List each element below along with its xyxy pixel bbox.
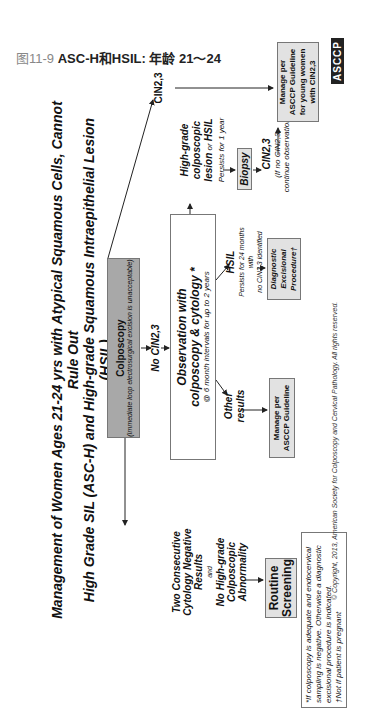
- high-grade-lesion-label: High-grade colposcopic lesion or HSIL Pe…: [179, 96, 228, 204]
- two-consecutive-line-3: Results: [193, 524, 204, 620]
- two-consecutive-and: and: [204, 524, 215, 620]
- manage-asccp-line-1: Manage per: [272, 396, 282, 440]
- routine-screening-box: Routine Screening: [265, 558, 297, 618]
- manage-young-line-1: Manage per: [278, 60, 288, 104]
- manage-young-women-box: Manage per ASCCP Guideline for young wom…: [277, 42, 319, 122]
- cin23-top-label: CIN2,3: [153, 68, 165, 108]
- footnote-line-3: excisional procedure is indicated.: [324, 585, 334, 703]
- high-grade-line-1: High-grade colposcopic: [179, 96, 203, 204]
- cin23-bottom-note-2: continue observation): [282, 113, 291, 195]
- observation-line-2: colposcopy & cytology *: [189, 267, 202, 406]
- cin23-bottom-label: CIN2,3 (If no CIN2,3, continue observati…: [261, 113, 291, 195]
- copyright-text: © Copyright, 2013, American Society for …: [331, 302, 338, 600]
- no-cin23-label: No CIN2,3: [150, 316, 162, 380]
- cin23-bottom-title: CIN2,3: [261, 113, 273, 195]
- manage-asccp-line-2: ASCCP Guideline: [282, 385, 292, 452]
- two-consecutive-line-1: Two Consecutive: [171, 524, 182, 620]
- manage-young-line-4: with CIN2,3: [308, 60, 318, 103]
- hsil-note-1: Persists for 24 months with: [237, 220, 255, 304]
- footnote-line-1: *If colposcopy is adequate and endocervi…: [304, 547, 314, 703]
- hsil-note-2: no CIN2,3 identified: [255, 220, 264, 304]
- two-consecutive-line-5: Colposcopic: [226, 524, 237, 620]
- two-consecutive-line-4: No High-grade: [215, 524, 226, 620]
- high-grade-line-3: Persists for 1 year: [216, 96, 228, 204]
- routine-line-2: Screening: [281, 559, 294, 617]
- manage-young-line-2: ASCCP Guideline: [288, 49, 298, 116]
- diagnostic-line-1: Diagnostic: [269, 249, 279, 290]
- biopsy-box: Biopsy: [237, 148, 252, 190]
- diagnostic-excisional-box: Diagnostic Excisional Procedure†: [267, 238, 301, 300]
- diagnostic-line-3: Procedure†: [289, 247, 299, 291]
- high-grade-hsil: HSIL: [203, 118, 214, 141]
- observation-box: Observation with colposcopy & cytology *…: [170, 214, 216, 460]
- footnote-box: *If colposcopy is adequate and endocervi…: [301, 532, 347, 708]
- cin23-bottom-note-1: (If no CIN2,3,: [273, 113, 282, 195]
- flowchart-canvas: Management of Women Ages 21-24 yrs with …: [45, 40, 350, 700]
- asccp-logo: ASCCP: [331, 38, 344, 84]
- high-grade-lesion-word: lesion: [203, 153, 214, 182]
- footnote-line-2: sampling is negative. Otherwise a diagno…: [314, 545, 324, 703]
- hsil-title: HSIL: [225, 220, 237, 304]
- observation-line-3: @ 6 month intervals for up to 2 years: [202, 271, 211, 402]
- two-consecutive-line-2: Cytology Negative: [182, 524, 193, 620]
- hsil-label: HSIL Persists for 24 months with no CIN2…: [225, 220, 264, 304]
- manage-young-line-3: for young women: [298, 49, 308, 116]
- other-results-label: Other results: [223, 382, 247, 430]
- other-results-line-1: Other: [223, 382, 235, 430]
- high-grade-or: or: [205, 141, 214, 153]
- two-consecutive-line-6: Abnormality: [237, 524, 248, 620]
- manage-asccp-box: Manage per ASCCP Guideline: [269, 378, 295, 458]
- other-results-line-2: results: [235, 382, 247, 430]
- diagnostic-line-2: Excisional: [279, 249, 289, 289]
- observation-line-1: Observation with: [176, 288, 189, 385]
- two-consecutive-label: Two Consecutive Cytology Negative Result…: [171, 524, 248, 620]
- footnote-line-4: †Not if patient is pregnant: [334, 612, 344, 703]
